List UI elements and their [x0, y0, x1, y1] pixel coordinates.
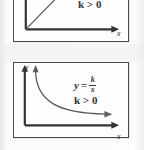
- hyperbola-right-arrowhead: [104, 111, 112, 118]
- direct-proportion-diagram: [14, 0, 128, 41]
- top-condition-label: k > 0: [78, 0, 101, 10]
- equation-numerator: k: [90, 76, 96, 84]
- direct-proportion-panel: [13, 0, 129, 42]
- figure-page: k > 0 x y x y = k x k > 0: [0, 0, 144, 150]
- equation-lhs: y: [74, 80, 79, 91]
- hyperbola-top-arrowhead: [33, 65, 39, 72]
- equation-fraction: k x: [89, 76, 96, 95]
- inverse-proportion-diagram: [14, 63, 128, 137]
- line-curve: [27, 0, 85, 28]
- bottom-condition-label: k > 0: [74, 95, 97, 106]
- x-axis-arrowhead: [111, 122, 119, 129]
- bottom-equation-label: y = k x: [74, 76, 96, 95]
- equation-relation: =: [81, 80, 87, 91]
- bottom-x-axis-label: x: [117, 133, 121, 141]
- inverse-proportion-panel: [13, 62, 129, 138]
- top-x-axis-label: x: [117, 30, 121, 38]
- bottom-y-axis-label: y: [25, 64, 29, 72]
